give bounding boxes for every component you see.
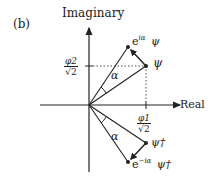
rot-psi-dag-label: e−iα ψ† <box>132 157 171 171</box>
x-tick-label: φ1 √2 <box>137 113 151 134</box>
alpha-lower-label: α <box>111 130 118 143</box>
rot-psi-vector <box>89 47 128 105</box>
rotation-arrow-upper <box>131 50 146 66</box>
complex-plane-diagram <box>0 0 212 182</box>
rot-psi-dag-point <box>126 160 130 164</box>
angle-arc-lower <box>101 117 106 123</box>
alpha-upper-label: α <box>111 69 118 82</box>
rot-psi-dag-vector <box>89 105 128 162</box>
rot-psi-label: eiα ψ <box>132 34 160 48</box>
psi-dag-label: ψ† <box>151 136 165 149</box>
angle-arc-upper <box>101 87 106 93</box>
panel-label: (b) <box>13 17 30 31</box>
y-tick-label: φ2 √2 <box>64 56 78 77</box>
x-axis-label: Real <box>180 98 205 111</box>
rot-psi-point <box>126 45 130 49</box>
psi-dag-point <box>144 141 148 145</box>
psi-point <box>144 64 148 68</box>
psi-label: ψ <box>153 56 162 70</box>
y-axis-label: Imaginary <box>62 6 124 20</box>
